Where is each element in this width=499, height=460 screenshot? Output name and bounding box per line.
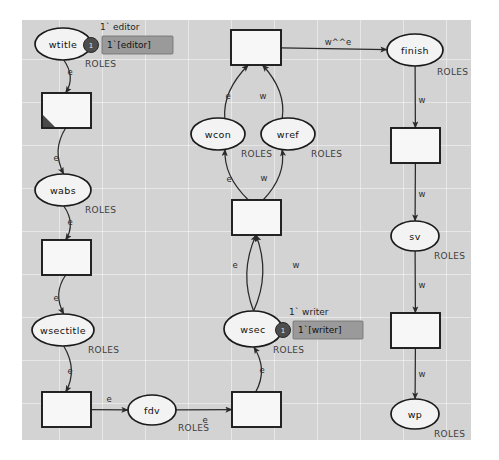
screenshot-root: eeeeeeeeeweweww^^ewwwwwtitlewabswsectitl… xyxy=(0,0,499,460)
place-label-wsec: wsec xyxy=(240,324,265,335)
place-label-wsectitle: wsectitle xyxy=(40,325,86,336)
token-count-wsec: 1 xyxy=(281,327,285,335)
arc-t6-to-finish[interactable] xyxy=(281,48,387,50)
place-label-wref: wref xyxy=(277,129,300,140)
place-label-finish: finish xyxy=(401,45,429,56)
arc-label-a8: e xyxy=(259,365,264,375)
initial-marking-expression-wsec: 1` writer xyxy=(289,307,329,317)
arc-label-a11: e xyxy=(226,174,231,184)
arc-label-a14: w xyxy=(260,91,267,101)
type-label-sv: ROLES xyxy=(434,251,465,261)
petri-net-graph[interactable]: eeeeeeeeeweweww^^ewwwwwtitlewabswsectitl… xyxy=(0,0,499,460)
type-label-wsec: ROLES xyxy=(273,345,304,355)
transition-t2[interactable] xyxy=(42,240,91,275)
arc-label-a10: w xyxy=(293,260,300,270)
type-label-wabs: ROLES xyxy=(85,205,116,215)
place-label-wcon: wcon xyxy=(205,129,231,140)
type-label-wp: ROLES xyxy=(434,429,465,439)
arc-label-a2: e xyxy=(53,153,58,163)
place-label-sv: sv xyxy=(409,231,420,242)
transition-t6[interactable] xyxy=(231,30,281,65)
type-label-wcon: ROLES xyxy=(241,149,272,159)
transition-t3[interactable] xyxy=(42,392,91,427)
place-label-wp: wp xyxy=(408,409,423,420)
arc-label-a15: w^^e xyxy=(325,37,351,47)
token-count-wtitle: 1 xyxy=(89,42,93,50)
type-label-wref: ROLES xyxy=(311,149,342,159)
arc-label-a18: w xyxy=(419,280,426,290)
transition-t8[interactable] xyxy=(391,313,440,348)
arc-wsec-to-t5[interactable] xyxy=(247,235,256,311)
initial-marking-expression-wtitle: 1` editor xyxy=(100,22,140,32)
arc-label-a1: e xyxy=(67,67,72,77)
arc-label-a6: e xyxy=(106,394,111,404)
type-label-wsectitle: ROLES xyxy=(88,345,119,355)
arc-label-a3: e xyxy=(67,217,72,227)
arc-label-a19: w xyxy=(419,369,426,379)
type-label-fdv: ROLES xyxy=(178,423,209,433)
place-label-fdv: fdv xyxy=(144,405,160,416)
arc-label-a12: w xyxy=(261,173,268,183)
arc-label-a4: e xyxy=(53,293,58,303)
arc-label-a16: w xyxy=(419,95,426,105)
arc-label-a17: w xyxy=(419,189,426,199)
transition-t4[interactable] xyxy=(232,392,281,427)
type-label-wtitle: ROLES xyxy=(85,59,116,69)
marking-text-wtitle: 1`[editor] xyxy=(107,40,151,50)
arc-t1-to-wabs[interactable] xyxy=(58,128,66,174)
transition-t7[interactable] xyxy=(391,128,440,163)
arc-label-a9: e xyxy=(232,260,237,270)
transition-t5[interactable] xyxy=(232,200,281,235)
place-label-wabs: wabs xyxy=(50,185,76,196)
type-label-finish: ROLES xyxy=(437,67,468,77)
arc-t2-to-wsectitle[interactable] xyxy=(59,275,66,314)
arc-label-a5: e xyxy=(67,366,72,376)
arc-label-a13: e xyxy=(225,91,230,101)
arc-wsec-to-t5[interactable] xyxy=(254,235,263,311)
marking-text-wsec: 1`[writer] xyxy=(298,325,342,335)
nodes-layer xyxy=(32,28,443,429)
place-label-wtitle: wtitle xyxy=(49,39,78,50)
